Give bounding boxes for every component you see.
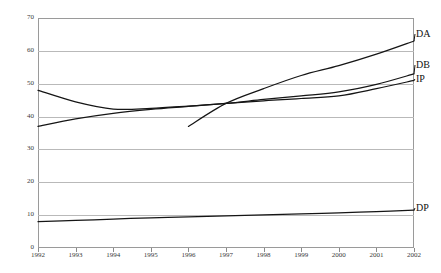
series-leader-da	[414, 34, 415, 41]
series-label-ip: IP	[416, 74, 425, 84]
series-layer	[0, 0, 441, 273]
series-line-dp	[38, 210, 414, 222]
series-label-db: DB	[416, 60, 430, 70]
series-label-dp: DP	[416, 203, 429, 213]
series-leader-ip	[414, 79, 415, 80]
series-label-da: DA	[416, 29, 430, 39]
series-leader-db	[414, 65, 415, 74]
series-leader-dp	[414, 208, 415, 210]
series-line-ip	[38, 80, 414, 126]
line-chart: 010203040506070 199219931994199519961997…	[0, 0, 441, 273]
